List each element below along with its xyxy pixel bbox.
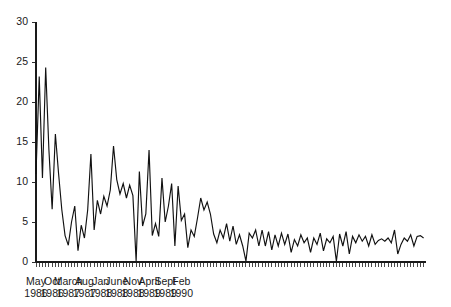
x-tick-label-year: 1990 [170, 287, 194, 299]
y-tick-label: 0 [22, 255, 28, 267]
x-tick-label-month: Aug [75, 275, 94, 287]
series-line-path [36, 68, 424, 262]
y-tick-label: 5 [22, 215, 28, 227]
y-tick-label: 20 [16, 95, 28, 107]
y-tick-label: 10 [16, 175, 28, 187]
x-tick-label-month: Feb [172, 275, 190, 287]
y-tick-label: 15 [16, 135, 28, 147]
y-tick-label: 25 [16, 55, 28, 67]
data-series [36, 68, 424, 262]
y-axis: 051015202530 [16, 15, 36, 267]
x-axis [36, 262, 426, 267]
line-chart: 051015202530 May1986Oct1986March1987Aug1… [0, 0, 451, 307]
x-axis-labels: May1986Oct1986March1987Aug1987Jan1988Jun… [24, 275, 193, 299]
y-tick-label: 30 [16, 15, 28, 27]
chart-container: 051015202530 May1986Oct1986March1987Aug1… [0, 0, 451, 307]
